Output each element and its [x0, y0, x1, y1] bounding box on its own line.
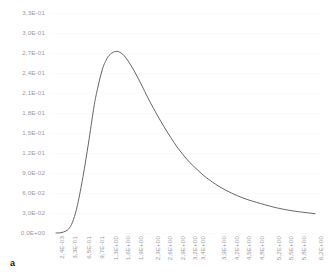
x-tick-label: 3,4E+00	[200, 236, 206, 260]
x-tick-label: 2,3E+00	[155, 236, 161, 260]
x-tick-label: 9,7E-01	[99, 236, 105, 259]
x-tick-label: 5,8E+00	[301, 236, 307, 260]
x-tick-label: 3,3E-01	[72, 236, 78, 259]
x-tick-label: 2,9E+00	[180, 236, 186, 260]
panel-label: a	[10, 259, 15, 268]
x-tick-label: 5,2E+00	[276, 236, 282, 260]
x-tick-label: 2,4E-03	[59, 236, 65, 259]
figure-panel: 0,0E+003,0E-026,0E-029,0E-021,2E-011,5E-…	[0, 0, 328, 278]
x-tick-label: 1,3E+00	[113, 236, 119, 260]
x-tick-label: 4,5E+00	[246, 236, 252, 260]
x-tick-label: 3,9E+00	[221, 236, 227, 260]
x-tick-label: 2,6E+00	[167, 236, 173, 260]
x-tick-label: 6,5E-01	[86, 236, 92, 259]
x-tick-label: 5,5E+00	[288, 236, 294, 260]
x-tick-label: 4,2E+00	[234, 236, 240, 260]
x-tick-label: 4,8E+00	[259, 236, 265, 260]
x-axis: 2,4E-033,3E-016,5E-019,7E-011,3E+001,6E+…	[0, 0, 328, 278]
x-tick-label: 1,6E+00	[125, 236, 131, 260]
x-tick-label: 6,2E+00	[318, 236, 324, 260]
x-tick-label: 1,9E+00	[138, 236, 144, 260]
x-tick-label: 3,2E+00	[192, 236, 198, 260]
